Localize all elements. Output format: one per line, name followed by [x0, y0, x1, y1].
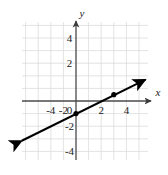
- x-axis-label: x: [155, 86, 161, 98]
- plot-background: [22, 22, 148, 160]
- y-axis-label: y: [79, 7, 85, 19]
- y-tick-label--2: -2: [65, 120, 74, 132]
- coordinate-plane-svg: -4 -2 0 2 4 4 2 -2 -4 x y: [0, 0, 168, 175]
- y-tick-label-4: 4: [67, 32, 73, 44]
- x-tick-label-2: 2: [98, 104, 104, 116]
- x-tick-label-4: 4: [124, 104, 130, 116]
- y-tick-label-2: 2: [67, 57, 73, 69]
- x-tick-label--4: -4: [46, 104, 56, 116]
- point-second: [111, 92, 116, 97]
- coordinate-plane-figure: -4 -2 0 2 4 4 2 -2 -4 x y: [0, 0, 168, 175]
- point-y-intercept: [73, 111, 78, 116]
- x-tick-label-0: 0: [67, 104, 73, 116]
- y-tick-label--4: -4: [65, 145, 75, 157]
